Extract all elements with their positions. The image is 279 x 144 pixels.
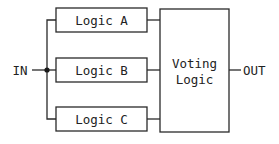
voting-logic-box bbox=[160, 9, 229, 132]
output-label: OUT bbox=[243, 63, 266, 78]
logic-block-a: Logic A bbox=[56, 8, 147, 32]
voting-logic-label-line2: Logic bbox=[176, 72, 214, 87]
logic-c-label: Logic C bbox=[75, 112, 128, 127]
junction-dot bbox=[44, 67, 49, 72]
voting-logic-block: Voting Logic bbox=[160, 9, 229, 132]
logic-b-label: Logic B bbox=[75, 63, 128, 78]
logic-block-b: Logic B bbox=[56, 58, 147, 82]
input-label: IN bbox=[12, 63, 27, 78]
logic-block-c: Logic C bbox=[56, 107, 147, 131]
tmr-diagram: IN Logic A Logic B Logic C Voting Logic … bbox=[0, 0, 279, 144]
logic-a-label: Logic A bbox=[75, 13, 128, 28]
voting-logic-label-line1: Voting bbox=[172, 56, 217, 71]
